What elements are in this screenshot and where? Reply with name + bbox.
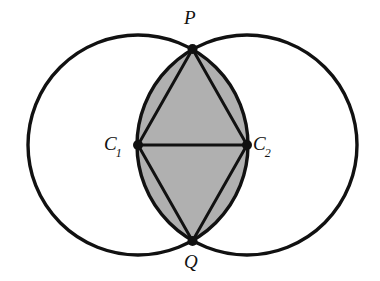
label-point-q-text: Q (184, 251, 198, 272)
label-point-p: P (184, 8, 196, 27)
geometry-figure: P Q C1 C2 (0, 0, 380, 281)
label-point-p-text: P (184, 7, 196, 28)
label-point-c2: C2 (253, 134, 272, 157)
label-point-c2-text: C (253, 133, 266, 154)
label-point-c2-subscript: 2 (265, 146, 271, 160)
point-c1 (133, 140, 143, 150)
label-point-c1: C1 (104, 134, 123, 157)
label-point-c1-text: C (104, 133, 117, 154)
label-point-q: Q (184, 252, 198, 271)
geometry-canvas (0, 0, 380, 281)
point-c2 (242, 140, 252, 150)
point-p (188, 44, 198, 54)
point-q (188, 236, 198, 246)
label-point-c1-subscript: 1 (116, 146, 122, 160)
